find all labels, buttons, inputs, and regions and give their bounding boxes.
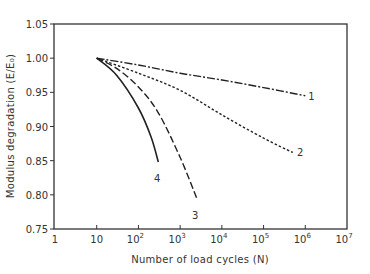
curve-label-2: 2 [297, 147, 303, 158]
x-tick-label: 106 [294, 232, 312, 245]
y-tick-label: 1.00 [26, 53, 48, 64]
y-tick-label: 0.75 [26, 224, 48, 235]
y-tick-label: 0.85 [26, 156, 48, 167]
x-tick-label: 10 [90, 234, 103, 245]
plot-border [54, 24, 347, 229]
curve-label-3: 3 [192, 210, 198, 221]
chart: 110102103104105106107 1.051.000.950.900.… [0, 0, 370, 274]
x-tick-label: 103 [169, 232, 186, 245]
x-axis-ticks: 110102103104105106107 [52, 225, 353, 245]
y-tick-label: 1.05 [26, 19, 48, 30]
y-axis-label: Modulus degradation (E/E₀) [5, 54, 16, 198]
x-tick-label: 1 [52, 234, 58, 245]
y-tick-label: 0.80 [26, 190, 48, 201]
curve-3 [97, 58, 197, 198]
x-axis-label: Number of load cycles (N) [131, 254, 269, 265]
curves [97, 58, 306, 198]
curve-labels: 1234 [154, 91, 315, 222]
curve-2 [97, 58, 293, 152]
curve-label-1: 1 [308, 91, 314, 102]
x-tick-label: 107 [335, 232, 352, 245]
curve-4 [97, 58, 159, 162]
x-tick-label: 102 [127, 232, 144, 245]
y-tick-label: 0.90 [26, 122, 48, 133]
x-tick-label: 104 [210, 232, 228, 245]
plot-frame [54, 24, 347, 229]
x-tick-label: 105 [252, 232, 269, 245]
y-axis-ticks: 1.051.000.950.900.850.800.75 [26, 19, 54, 235]
curve-label-4: 4 [154, 173, 160, 184]
y-tick-label: 0.95 [26, 87, 48, 98]
